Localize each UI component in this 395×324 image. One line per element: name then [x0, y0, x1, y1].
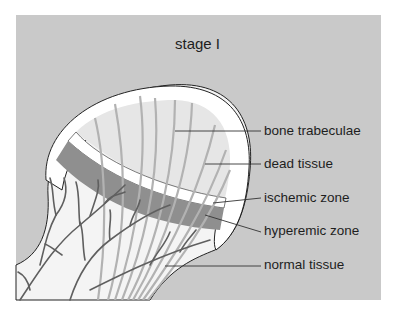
label-bone-trabeculae: bone trabeculae	[264, 123, 361, 139]
label-ischemic-zone: ischemic zone	[264, 190, 350, 206]
label-normal-tissue: normal tissue	[264, 257, 344, 273]
label-dead-tissue: dead tissue	[264, 156, 333, 172]
label-hyperemic-zone: hyperemic zone	[264, 223, 359, 239]
diagram-title: stage I	[0, 35, 395, 52]
